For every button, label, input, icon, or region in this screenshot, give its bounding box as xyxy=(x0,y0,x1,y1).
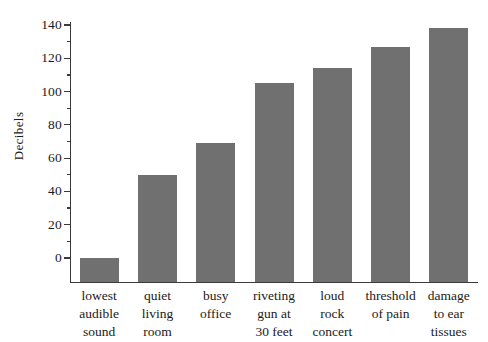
bar[interactable] xyxy=(429,28,468,282)
bar[interactable] xyxy=(313,68,352,282)
y-axis-tick-label: 0 xyxy=(14,251,62,265)
y-axis-tick-label: 40 xyxy=(14,184,62,198)
x-axis-category-label: riveting gun at 30 feet xyxy=(245,287,303,340)
x-axis-line xyxy=(70,282,478,283)
y-axis-tick-label: 80 xyxy=(14,118,62,132)
x-axis-category-label: lowest audible sound xyxy=(70,287,128,340)
bar[interactable] xyxy=(80,258,119,282)
x-axis-category-label: quiet living room xyxy=(128,287,186,340)
x-axis-category-label: busy office xyxy=(187,287,245,323)
y-axis-tick-label: 100 xyxy=(14,85,62,99)
bar[interactable] xyxy=(196,143,235,282)
decibel-bar-chart: Decibels 020406080100120140 lowest audib… xyxy=(0,0,488,342)
plot-area xyxy=(70,22,478,282)
x-axis-category-label: loud rock concert xyxy=(303,287,361,340)
y-axis-tick-label-layer: 020406080100120140 xyxy=(8,0,62,342)
x-axis-category-label: damage to ear tissues xyxy=(420,287,478,340)
bar[interactable] xyxy=(255,83,294,282)
y-axis-tick-label: 140 xyxy=(14,18,62,32)
y-axis-tick-label: 120 xyxy=(14,51,62,65)
bar[interactable] xyxy=(371,47,410,282)
y-axis-tick-label: 60 xyxy=(14,151,62,165)
x-axis-category-label: threshold of pain xyxy=(361,287,419,323)
y-axis-tick-label: 20 xyxy=(14,218,62,232)
bar[interactable] xyxy=(138,175,177,282)
